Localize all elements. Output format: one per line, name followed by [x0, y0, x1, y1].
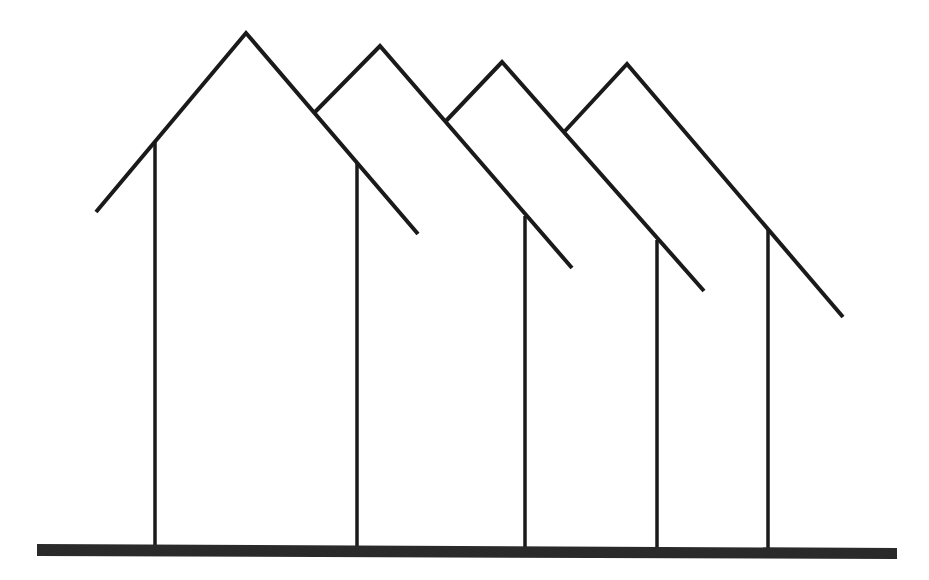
roofs-group — [96, 33, 843, 317]
houses-line-diagram — [0, 0, 929, 580]
roof-1 — [96, 33, 418, 234]
roof-3 — [445, 62, 704, 291]
roof-4 — [565, 64, 843, 317]
posts-group — [155, 142, 768, 549]
